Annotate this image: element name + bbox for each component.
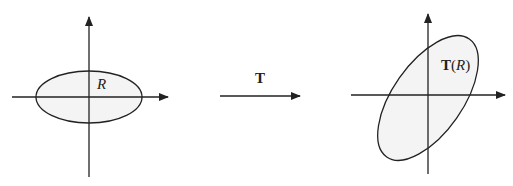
region-r-label: R [97, 76, 106, 93]
right-panel [351, 14, 505, 177]
left-panel [12, 17, 168, 177]
tr-label-close-paren: ) [465, 57, 470, 73]
tr-label-t: T [441, 57, 451, 73]
transformation-diagram: R T T(R) [0, 0, 513, 186]
diagram-graphics [0, 0, 513, 186]
tr-label-r: R [456, 57, 465, 73]
transform-label: T [255, 70, 265, 87]
region-tr-label: T(R) [441, 57, 470, 74]
